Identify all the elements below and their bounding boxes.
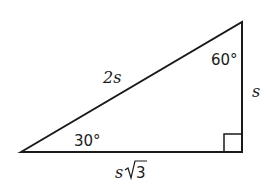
triangle — [21, 22, 242, 152]
triangle-diagram: 2s 60° s 30° s 3 — [0, 0, 269, 193]
right-angle-marker — [224, 134, 242, 152]
angle-60-label: 60° — [211, 51, 238, 69]
horizontal-leg-label: s 3 — [115, 161, 147, 182]
vertical-leg-label: s — [252, 82, 260, 101]
svg-text:3: 3 — [136, 164, 146, 182]
svg-text:s: s — [115, 163, 123, 182]
hypotenuse-label: 2s — [102, 68, 121, 87]
angle-30-label: 30° — [74, 132, 101, 150]
